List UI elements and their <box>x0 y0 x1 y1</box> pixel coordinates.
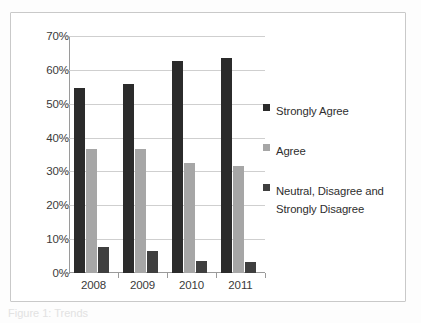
figure-caption: Figure 1: Trends <box>8 307 208 319</box>
chart-canvas: 0%10%20%30%40%50%60%70% 2008200920102011… <box>11 13 407 303</box>
bar-2010-series-2[interactable] <box>196 261 207 273</box>
x-axis-tick-mark <box>118 273 119 278</box>
x-axis-label-2008: 2008 <box>69 279 118 291</box>
y-axis-tick-label: 70% <box>27 31 69 41</box>
y-axis-tick-mark <box>64 273 69 274</box>
legend-item-1[interactable]: Agree <box>263 141 405 159</box>
bar-group-2008 <box>69 36 118 273</box>
bar-2009-series-1[interactable] <box>135 149 146 273</box>
x-axis-tick-mark <box>265 273 266 278</box>
x-axis-label-2010: 2010 <box>167 279 216 291</box>
bar-2011-series-1[interactable] <box>233 166 244 273</box>
bar-group-2009 <box>118 36 167 273</box>
legend-item-label: Strongly Agree <box>276 105 349 117</box>
legend-item-label: Neutral, Disagree and Strongly Disagree <box>276 185 384 215</box>
y-axis-tick-label: 10% <box>27 234 69 244</box>
bar-2009-series-0[interactable] <box>123 84 134 273</box>
plot-area: 2008200920102011 <box>69 36 265 273</box>
legend-item-2[interactable]: Neutral, Disagree and Strongly Disagree <box>263 181 405 217</box>
bar-2008-series-2[interactable] <box>98 247 109 273</box>
legend-item-0[interactable]: Strongly Agree <box>263 101 405 119</box>
legend-swatch-icon <box>263 104 270 111</box>
legend-item-label: Agree <box>276 145 306 157</box>
y-axis-tick-label: 60% <box>27 65 69 75</box>
bar-2010-series-0[interactable] <box>172 61 183 273</box>
x-axis-label-2011: 2011 <box>216 279 265 291</box>
chart-frame: 0%10%20%30%40%50%60%70% 2008200920102011… <box>10 12 406 302</box>
y-axis-tick-label: 30% <box>27 166 69 176</box>
y-axis-tick-label: 50% <box>27 99 69 109</box>
chart-legend: Strongly AgreeAgreeNeutral, Disagree and… <box>263 101 405 239</box>
y-axis-tick-label: 0% <box>27 268 69 278</box>
bar-2009-series-2[interactable] <box>147 251 158 273</box>
legend-swatch-icon <box>263 184 270 191</box>
legend-swatch-icon <box>263 144 270 151</box>
bar-2010-series-1[interactable] <box>184 163 195 273</box>
bar-2011-series-0[interactable] <box>221 58 232 273</box>
x-axis-label-2009: 2009 <box>118 279 167 291</box>
bar-group-2010 <box>167 36 216 273</box>
bar-group-2011 <box>216 36 265 273</box>
bar-2008-series-0[interactable] <box>74 88 85 273</box>
bar-2008-series-1[interactable] <box>86 149 97 273</box>
x-axis-tick-mark <box>216 273 217 278</box>
x-axis-tick-mark <box>167 273 168 278</box>
bar-2011-series-2[interactable] <box>245 262 256 274</box>
y-axis-tick-label: 20% <box>27 200 69 210</box>
figure-page: 0%10%20%30%40%50%60%70% 2008200920102011… <box>0 0 421 323</box>
y-axis-tick-label: 40% <box>27 133 69 143</box>
y-axis-tick-labels: 0%10%20%30%40%50%60%70% <box>25 13 69 303</box>
